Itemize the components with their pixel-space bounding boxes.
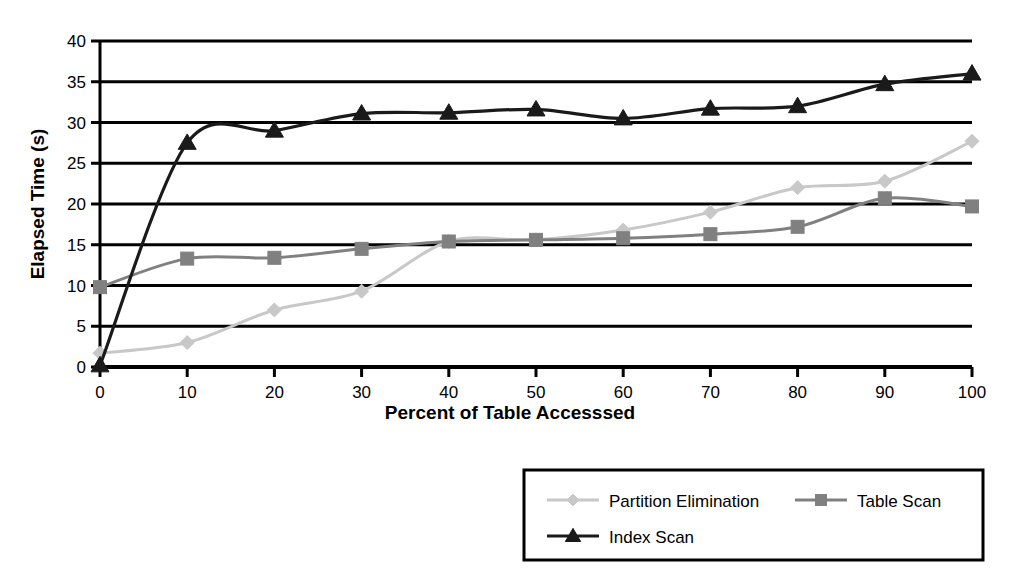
square-marker — [181, 252, 194, 265]
legend-label: Index Scan — [609, 528, 694, 547]
legend-label: Partition Elimination — [609, 492, 759, 511]
chart-container: 0510152025303540 0102030405060708090100 … — [0, 0, 1014, 574]
x-tick-label: 10 — [178, 383, 197, 402]
square-marker — [268, 251, 281, 264]
x-tick-label: 50 — [527, 383, 546, 402]
square-marker — [530, 233, 543, 246]
square-marker — [617, 232, 630, 245]
y-tick-label: 30 — [67, 114, 86, 133]
square-marker — [442, 235, 455, 248]
line-chart: 0510152025303540 0102030405060708090100 … — [0, 0, 1014, 574]
square-marker — [815, 494, 826, 505]
x-tick-label: 100 — [958, 383, 986, 402]
x-tick-label: 30 — [352, 383, 371, 402]
square-marker — [704, 228, 717, 241]
square-marker — [966, 200, 979, 213]
x-tick-label: 0 — [95, 383, 104, 402]
y-tick-label: 20 — [67, 195, 86, 214]
y-tick-label: 15 — [67, 236, 86, 255]
square-marker — [878, 192, 891, 205]
legend: Partition EliminationTable ScanIndex Sca… — [524, 470, 983, 560]
y-tick-label: 10 — [67, 277, 86, 296]
legend-label: Table Scan — [857, 492, 941, 511]
x-tick-label: 80 — [788, 383, 807, 402]
y-tick-label: 40 — [67, 32, 86, 51]
x-tick-label: 90 — [875, 383, 894, 402]
y-tick-label: 0 — [77, 358, 86, 377]
y-tick-label: 35 — [67, 73, 86, 92]
square-marker — [94, 281, 107, 294]
x-tick-label: 40 — [439, 383, 458, 402]
legend-box — [524, 470, 983, 560]
square-marker — [791, 220, 804, 233]
x-axis-title: Percent of Table Accesssed — [385, 402, 635, 423]
x-tick-label: 60 — [614, 383, 633, 402]
y-axis-title: Elapsed Time (s) — [27, 129, 48, 280]
square-marker — [355, 242, 368, 255]
x-tick-label: 20 — [265, 383, 284, 402]
y-tick-label: 5 — [77, 317, 86, 336]
x-tick-label: 70 — [701, 383, 720, 402]
y-tick-label: 25 — [67, 154, 86, 173]
